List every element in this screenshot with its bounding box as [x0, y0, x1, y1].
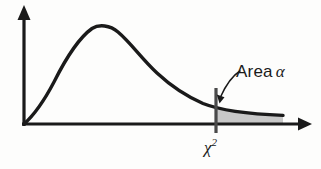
chi-exponent: 2 — [211, 136, 217, 148]
chart-canvas — [0, 0, 321, 169]
area-leader-arrowhead-icon — [217, 95, 225, 104]
chi-square-distribution-figure: Areaα χ2 — [0, 0, 321, 169]
area-label-text: Area — [236, 62, 273, 81]
alpha-symbol: α — [273, 62, 285, 81]
y-axis-arrowhead-icon — [18, 5, 31, 20]
x-axis-arrowhead-icon — [298, 118, 312, 131]
area-alpha-label: Areaα — [236, 62, 285, 82]
chi-squared-axis-label: χ2 — [204, 136, 217, 158]
